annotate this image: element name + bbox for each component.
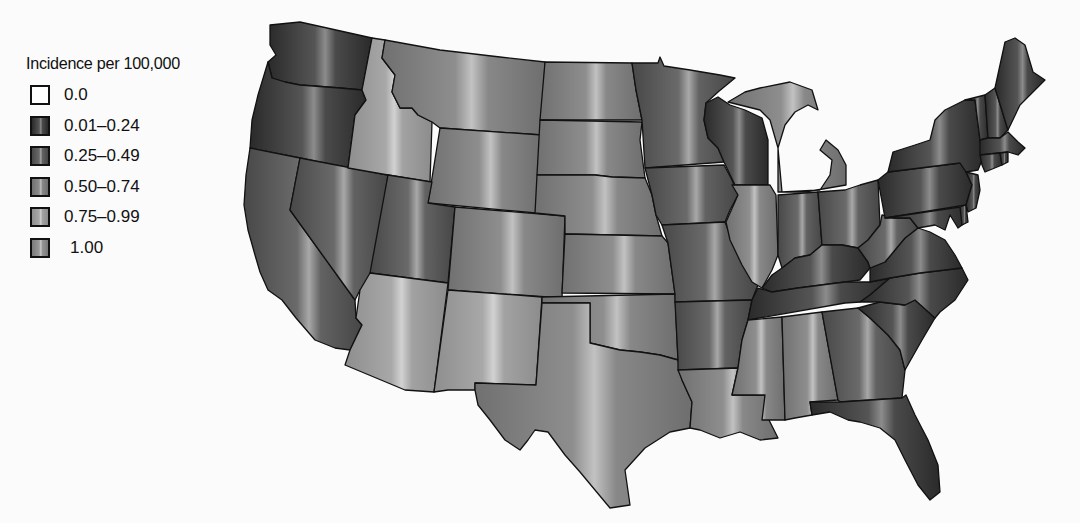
legend-swatch-0 [30,85,50,105]
legend-label: 0.0 [64,85,88,105]
legend-label: 0.50–0.74 [64,177,140,197]
state-nm [434,290,542,392]
state-de [960,205,968,225]
legend-item-4: 0.75–0.99 [26,202,188,233]
state-wa [268,22,372,90]
legend-swatch-1 [30,116,50,136]
legend-swatch-5 [30,238,50,258]
legend-item-1: 0.01–0.24 [26,111,188,142]
legend-label: 0.75–0.99 [64,207,140,227]
legend-title: Incidence per 100,000 [26,54,180,74]
legend-item-0: 0.0 [26,80,188,111]
legend-item-3: 0.50–0.74 [26,172,188,203]
legend-swatch-2 [30,146,50,166]
legend-swatch-3 [30,177,50,197]
map-legend: Incidence per 100,000 0.0 0.01–0.24 0.25… [26,54,188,263]
legend-item-2: 0.25–0.49 [26,141,188,172]
state-ks [562,234,675,294]
state-nd [540,62,642,120]
state-wy [428,128,542,213]
legend-item-5: 1.00 [26,233,188,264]
state-sd [537,120,645,178]
state-ny [888,100,982,172]
state-fl [810,395,940,500]
legend-swatch-4 [30,207,50,227]
legend-label: 1.00 [70,238,103,258]
state-ri [1000,152,1008,165]
legend-label: 0.25–0.49 [64,146,140,166]
state-co [448,207,565,298]
state-az [345,273,448,392]
state-ct [980,153,1002,172]
legend-label: 0.01–0.24 [64,116,140,136]
state-ia [645,165,738,225]
